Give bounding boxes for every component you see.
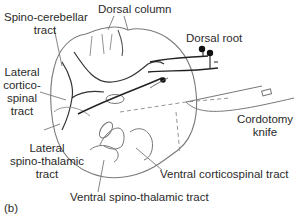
label-ventral-corticospinal-tract: Ventral corticospinal tract [160,168,288,181]
dorsal-root-ganglion-1 [199,46,205,52]
dorsal-column-leaders [108,16,128,30]
lateral-spinothalamic-leader [44,124,60,130]
label-lateral-spinothalamic-tract: Lateral spino-thalamic tract [4,142,90,181]
cordotomy-cut-line [120,98,230,112]
label-ventral-spinothalamic-tract: Ventral spino-thalamic tract [70,191,209,204]
ventral-corticospinal-leader [136,148,162,170]
label-spino-cerebellar-tract: Spino-cerebellar tract [4,11,86,37]
lateral-corticospinal-leader [40,92,66,100]
label-cordotomy-knife: Cordotomy knife [236,113,294,139]
dorsal-root-ganglion-stalks [203,46,218,68]
ventral-right-curve [130,129,153,160]
spinothalamic-crossing-fiber [78,78,162,114]
grey-matter-outline [62,52,164,130]
dorsal-median-sulcus [118,30,123,56]
panel-label: (b) [4,202,18,215]
central-canal [106,95,124,104]
label-lateral-corticospinal-tract: Lateral cortico- spinal tract [2,66,42,118]
dorsal-root-ganglion-2 [207,50,213,56]
cordotomy-cut-vertical [176,112,180,154]
dorsal-column-fibers [90,34,112,56]
spinal-cord-diagram: Dorsal column Spino-cerebellar tract Dor… [0,0,294,218]
cordotomy-knife-outline [186,86,294,111]
ventral-grey-curve [90,146,118,163]
cordotomy-knife-tip [262,89,272,96]
dorsal-root-fibers [148,56,218,72]
label-dorsal-root: Dorsal root [186,32,242,45]
label-dorsal-column: Dorsal column [98,3,172,16]
